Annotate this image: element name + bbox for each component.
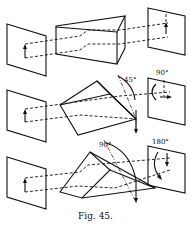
angle-label-45: 45°: [124, 76, 136, 84]
panel-3: 90° 180°: [7, 138, 185, 209]
image-arrow-down-3: [165, 162, 169, 167]
object-screen-1: [7, 24, 46, 76]
angle-label-180: 180°: [152, 138, 169, 146]
panel-2: 45° 90°: [7, 69, 185, 142]
prism-image-rotation-diagram: 45° 90° 90° 180°: [0, 0, 191, 230]
image-arrow-right-2: [167, 95, 172, 99]
angle-label-90-prism: 90°: [99, 141, 111, 149]
panel-1: [7, 8, 185, 76]
figure-caption: Fig. 45.: [0, 211, 191, 221]
angle-label-90-image: 90°: [156, 69, 168, 77]
image-screen-2: [148, 78, 185, 125]
object-screen-2: [7, 90, 46, 142]
